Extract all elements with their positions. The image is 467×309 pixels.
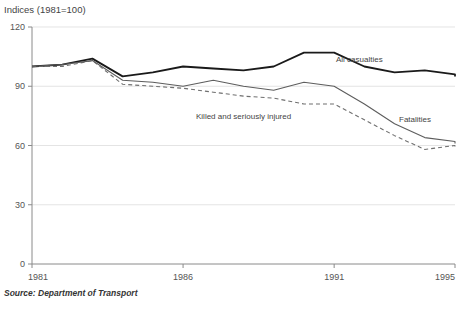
series-label-2: Fatalities [399, 115, 431, 124]
y-tick-label: 120 [10, 22, 25, 32]
x-tick-label: 1991 [324, 272, 344, 282]
x-tick-label: 1986 [173, 272, 193, 282]
y-tick-label: 30 [15, 200, 25, 210]
series-label-1: Killed and seriously injured [196, 112, 291, 121]
source-note: Source: Department of Transport [4, 288, 139, 298]
casualty-indices-line-chart: Indices (1981=100) 0306090120 1981198619… [0, 0, 467, 309]
x-tick-label: 1981 [28, 272, 48, 282]
chart-axis-title: Indices (1981=100) [4, 4, 86, 15]
y-tick-label: 60 [15, 141, 25, 151]
chart-background [0, 0, 467, 309]
x-tick-label: 1995 [435, 272, 455, 282]
series-label-0: All casualties [336, 55, 383, 64]
y-tick-label: 90 [15, 81, 25, 91]
y-tick-label: 0 [20, 259, 25, 269]
